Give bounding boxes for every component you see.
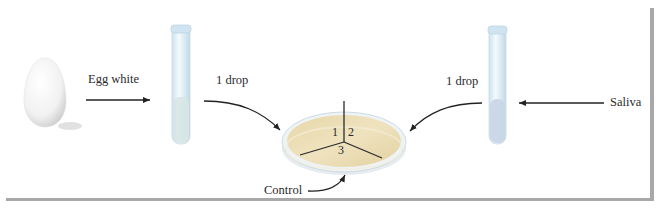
drop-arrow-right [410, 103, 482, 131]
frame-right-border [650, 8, 654, 201]
drop-label-right: 1 drop [446, 74, 478, 89]
control-arrow [308, 175, 345, 191]
frame-bottom-border [6, 198, 652, 201]
drop-label-left: 1 drop [216, 73, 248, 88]
test-tube-right-icon [488, 26, 507, 144]
saliva-label: Saliva [610, 95, 641, 110]
plate-section-1: 1 [332, 125, 338, 140]
drop-arrow-left [204, 101, 280, 130]
egg-white-label: Egg white [88, 72, 139, 87]
test-tube-left-icon [171, 25, 191, 144]
control-label: Control [264, 183, 302, 198]
petri-dish-icon [282, 101, 406, 175]
egg-icon [24, 58, 82, 130]
diagram: Egg white 1 drop 1 drop Saliva Control 1… [0, 0, 668, 219]
plate-section-2: 2 [348, 125, 354, 140]
plate-section-3: 3 [338, 143, 344, 158]
